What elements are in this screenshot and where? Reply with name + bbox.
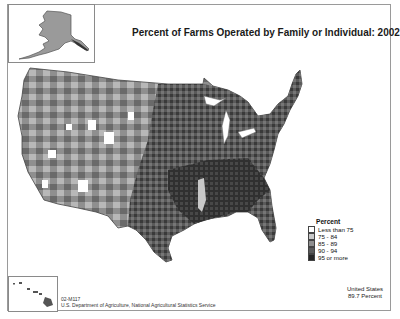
us-total: United States 89.7 Percent bbox=[347, 286, 383, 300]
legend-swatch bbox=[308, 233, 315, 240]
legend-label: Less than 75 bbox=[318, 226, 353, 233]
legend-item: 85 - 89 bbox=[308, 240, 353, 247]
total-value: 89.7 Percent bbox=[347, 293, 383, 300]
hawaii-inset bbox=[8, 276, 58, 312]
map-footer: 02-M117 U.S. Department of Agriculture, … bbox=[61, 296, 216, 308]
legend-item: Less than 75 bbox=[308, 226, 353, 233]
legend-label: 90 - 94 bbox=[318, 247, 337, 254]
legend-swatch bbox=[308, 254, 315, 261]
legend-label: 75 - 84 bbox=[318, 233, 337, 240]
us-county-map bbox=[8, 40, 308, 300]
legend-item: 90 - 94 bbox=[308, 247, 353, 254]
total-label: United States bbox=[347, 286, 383, 293]
hawaii-shape bbox=[9, 277, 57, 311]
legend-item: 75 - 84 bbox=[308, 233, 353, 240]
source-note: U.S. Department of Agriculture, National… bbox=[61, 302, 216, 308]
legend-swatch bbox=[308, 247, 315, 254]
legend-label: 95 or more bbox=[318, 254, 348, 261]
legend-label: 85 - 89 bbox=[318, 240, 337, 247]
legend-swatch bbox=[308, 226, 315, 233]
legend-item: 95 or more bbox=[308, 254, 353, 261]
legend-title: Percent bbox=[316, 218, 353, 225]
legend: Percent Less than 75 75 - 84 85 - 89 90 … bbox=[308, 218, 353, 261]
map-title: Percent of Farms Operated by Family or I… bbox=[132, 27, 400, 38]
legend-swatch bbox=[308, 240, 315, 247]
